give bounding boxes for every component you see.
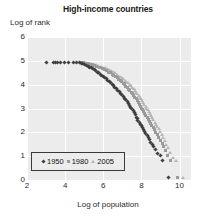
legend-marker-triangle-icon xyxy=(91,160,95,163)
y-tick-label-3: 3 xyxy=(3,104,25,113)
x-tick-label-6: 6 xyxy=(93,181,113,190)
legend-marker-square-icon xyxy=(67,160,70,163)
legend-label-1950: 1950 xyxy=(47,157,64,166)
data-point xyxy=(169,159,172,162)
x-axis-label: Log of population xyxy=(0,200,216,209)
data-point xyxy=(181,176,185,179)
y-tick-label-1: 1 xyxy=(3,151,25,160)
x-tick-label-2: 2 xyxy=(17,181,37,190)
gridline-horizontal-2 xyxy=(27,132,191,133)
data-point xyxy=(176,176,179,179)
legend-entry-1980: 1980 xyxy=(67,157,89,166)
data-point xyxy=(161,158,165,162)
data-point xyxy=(44,60,48,64)
gridline-horizontal-3 xyxy=(27,109,191,110)
y-tick-label-6: 6 xyxy=(3,32,25,41)
x-tick-label-8: 8 xyxy=(131,181,151,190)
legend-label-1980: 1980 xyxy=(72,157,89,166)
y-tick-label-4: 4 xyxy=(3,80,25,89)
legend-entry-1950: 1950 xyxy=(42,157,64,166)
data-point xyxy=(166,154,169,157)
data-point xyxy=(164,149,167,152)
x-tick-label-10: 10 xyxy=(170,181,190,190)
data-point xyxy=(166,146,170,149)
data-point xyxy=(162,145,165,148)
x-tick-label-4: 4 xyxy=(55,181,75,190)
y-tick-label-5: 5 xyxy=(3,56,25,65)
chart-figure: High-income countries Log of rank 012345… xyxy=(0,0,216,223)
legend-entry-2005: 2005 xyxy=(91,157,114,166)
chart-title: High-income countries xyxy=(0,4,216,14)
data-point xyxy=(174,159,178,162)
chart-legend: 195019802005 xyxy=(31,152,125,171)
legend-label-2005: 2005 xyxy=(97,157,114,166)
gridline-horizontal-6 xyxy=(27,37,191,38)
gridline-horizontal-4 xyxy=(27,85,191,86)
data-point xyxy=(66,60,70,64)
y-tick-label-2: 2 xyxy=(3,127,25,136)
legend-marker-diamond-icon xyxy=(41,159,45,163)
